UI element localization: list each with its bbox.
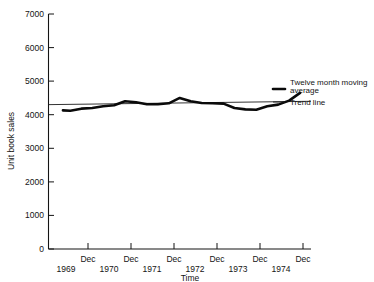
x-tick-label: Dec <box>252 254 268 264</box>
x-axis-tick-labels: Dec Dec Dec Dec Dec Dec <box>80 254 311 264</box>
x-year-label: 1970 <box>100 264 119 274</box>
y-axis-ticks <box>49 14 55 249</box>
y-tick-label: 2000 <box>25 177 44 187</box>
x-year-label: 1971 <box>143 264 162 274</box>
x-tick-label: Dec <box>80 254 96 264</box>
chart-container: 7000 6000 5000 4000 3000 2000 1000 0 Uni… <box>0 0 374 282</box>
x-tick-label: Dec <box>166 254 182 264</box>
x-year-label: 1973 <box>229 264 248 274</box>
x-axis-ticks <box>88 243 303 249</box>
legend-label-moving-average-line2: average <box>290 86 319 95</box>
x-tick-label: Dec <box>209 254 225 264</box>
y-tick-label: 6000 <box>25 43 44 53</box>
x-year-label: 1974 <box>272 264 291 274</box>
y-tick-label: 1000 <box>25 210 44 220</box>
trend-line-series <box>49 101 312 104</box>
legend-label-trend: Trend line <box>290 98 326 107</box>
y-tick-label: 3000 <box>25 143 44 153</box>
x-axis-title: Time <box>181 273 200 282</box>
y-tick-label: 5000 <box>25 76 44 86</box>
y-axis-tick-labels: 7000 6000 5000 4000 3000 2000 1000 0 <box>25 9 44 254</box>
y-tick-label: 7000 <box>25 9 44 19</box>
x-tick-label: Dec <box>123 254 139 264</box>
x-year-label: 1969 <box>57 264 76 274</box>
y-tick-label: 4000 <box>25 110 44 120</box>
y-tick-label: 0 <box>39 244 44 254</box>
x-tick-label: Dec <box>295 254 311 264</box>
y-axis-title: Unit book sales <box>6 112 16 170</box>
line-chart: 7000 6000 5000 4000 3000 2000 1000 0 Uni… <box>0 0 374 282</box>
x-axis-year-labels: 1969 1970 1971 1972 1973 1974 <box>57 264 291 274</box>
